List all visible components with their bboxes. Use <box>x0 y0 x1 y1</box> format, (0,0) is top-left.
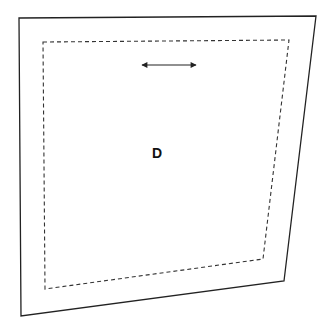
diagram-canvas: D <box>0 0 329 332</box>
outer-quadrilateral <box>19 16 316 316</box>
dashed-inner-quadrilateral <box>43 40 289 289</box>
region-label: D <box>152 145 162 161</box>
